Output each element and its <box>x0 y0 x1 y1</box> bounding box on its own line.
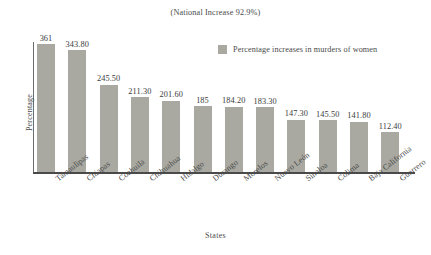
category-label: Baja California <box>367 176 373 183</box>
bar-group: 343.80 <box>68 30 86 172</box>
bar-value-label: 211.30 <box>128 87 151 96</box>
category-label: Tamaulipas <box>54 176 60 183</box>
category-label: Chiapas <box>85 176 91 183</box>
bar-group: 147.30 <box>287 30 305 172</box>
plot-area: 361343.80245.50211.30201.60185184.20183.… <box>34 30 415 172</box>
category-label: Colima <box>336 176 342 183</box>
bar-group: 361 <box>37 30 55 172</box>
bar <box>100 85 118 172</box>
bar-group: 112.40 <box>381 30 399 172</box>
bar-value-label: 112.40 <box>379 122 402 131</box>
bar-chart: (National Increase 92.9%) Percentage inc… <box>0 0 431 255</box>
bar-value-label: 184.20 <box>222 96 245 105</box>
category-label: Chihuahua <box>148 176 154 183</box>
bar-group: 185 <box>194 30 212 172</box>
bar-value-label: 343.80 <box>66 40 89 49</box>
bar <box>37 44 55 172</box>
x-axis-title: States <box>0 231 431 240</box>
category-label: Nuevo León <box>273 176 279 183</box>
category-label: Sinaloa <box>304 176 310 183</box>
bar-group: 245.50 <box>100 30 118 172</box>
bar-group: 145.50 <box>319 30 337 172</box>
bar-group: 201.60 <box>162 30 180 172</box>
category-label: Guerrero <box>398 176 404 183</box>
bar-value-label: 183.30 <box>253 97 276 106</box>
bar-value-label: 185 <box>196 96 209 105</box>
bar-value-label: 201.60 <box>159 90 182 99</box>
bar-group: 183.30 <box>256 30 274 172</box>
y-axis-title: Percentage <box>25 78 34 148</box>
bar-value-label: 141.80 <box>347 111 370 120</box>
category-label: Durango <box>211 176 217 183</box>
chart-title: (National Increase 92.9%) <box>0 8 431 17</box>
bar-value-label: 147.30 <box>285 109 308 118</box>
category-label: Morelos <box>242 176 248 183</box>
bar-group: 141.80 <box>350 30 368 172</box>
bar-group: 211.30 <box>131 30 149 172</box>
bar-value-label: 245.50 <box>97 74 120 83</box>
category-label: Hidalgo <box>179 176 185 183</box>
category-axis-labels: TamaulipasChiapasCoahuilaChihuahuaHidalg… <box>34 176 415 228</box>
category-label: Coahuila <box>117 176 123 183</box>
bar-value-label: 361 <box>40 34 53 43</box>
bar-value-label: 145.50 <box>316 110 339 119</box>
bar-group: 184.20 <box>225 30 243 172</box>
